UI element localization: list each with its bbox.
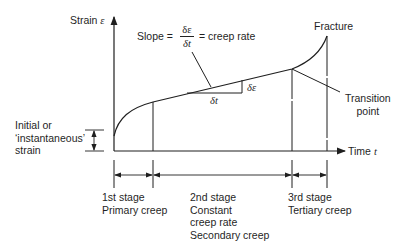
stage-2-label: 2nd stage Constant creep rate Secondary … bbox=[190, 191, 269, 241]
slope-leader bbox=[192, 52, 211, 87]
x-axis-label-text: Time bbox=[348, 145, 371, 157]
initial-strain-line1: Initial or bbox=[15, 119, 85, 132]
delta-epsilon-label: δε bbox=[247, 82, 256, 95]
slope-suffix: = creep rate bbox=[199, 30, 255, 43]
y-axis-symbol: ε bbox=[100, 15, 104, 26]
transition-label-line1: Transition bbox=[345, 92, 391, 105]
y-axis-label: Strain ε bbox=[70, 14, 105, 28]
slope-numerator: δε bbox=[182, 24, 191, 35]
stage-2-line4: Secondary creep bbox=[190, 229, 269, 242]
slope-fraction: δε δt bbox=[180, 24, 194, 49]
transition-leader bbox=[292, 69, 340, 92]
fracture-label: Fracture bbox=[314, 20, 353, 33]
stage-2-line1: 2nd stage bbox=[190, 191, 269, 204]
initial-strain-line3: strain bbox=[15, 144, 85, 157]
stage-3-line1: 3rd stage bbox=[288, 191, 352, 204]
creep-curve bbox=[114, 36, 327, 136]
transition-label: Transition point bbox=[345, 92, 391, 117]
slope-denominator: δt bbox=[183, 38, 191, 49]
transition-label-line2: point bbox=[345, 105, 391, 118]
stage-2-line3: creep rate bbox=[190, 216, 269, 229]
slope-triangle bbox=[187, 80, 242, 93]
delta-t-label: δt bbox=[210, 95, 218, 108]
stage-3-line2: Tertiary creep bbox=[288, 204, 352, 217]
x-axis-symbol: t bbox=[374, 146, 377, 157]
y-axis-label-text: Strain bbox=[70, 14, 97, 26]
stage-1-label: 1st stage Primary creep bbox=[102, 191, 167, 216]
initial-strain-line2: ‘instantaneous’ bbox=[15, 132, 85, 145]
stage-2-line2: Constant bbox=[190, 204, 269, 217]
x-axis-label: Time t bbox=[348, 145, 377, 159]
stage-1-line1: 1st stage bbox=[102, 191, 167, 204]
initial-strain-label: Initial or ‘instantaneous’ strain bbox=[15, 119, 85, 157]
slope-prefix: Slope = bbox=[137, 30, 173, 43]
stage-3-label: 3rd stage Tertiary creep bbox=[288, 191, 352, 216]
stage-1-line2: Primary creep bbox=[102, 204, 167, 217]
